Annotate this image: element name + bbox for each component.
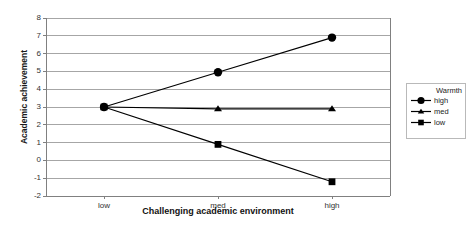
legend-label: high	[434, 97, 448, 105]
data-point-low	[215, 141, 222, 148]
legend-item-high[interactable]: high	[409, 95, 463, 106]
legend-label: med	[434, 108, 449, 116]
legend-label: low	[434, 119, 445, 127]
data-point-low	[101, 104, 108, 111]
data-point-high	[214, 68, 222, 76]
legend-marker-triangle-icon	[410, 106, 432, 117]
legend-item-med[interactable]: med	[409, 106, 463, 117]
data-point-low	[329, 178, 336, 185]
data-series-layer	[100, 33, 336, 185]
legend-marker-circle-icon	[410, 95, 432, 106]
interaction-line-chart: Academic achievement 876543210-1-2 lowme…	[0, 0, 472, 234]
legend-title: Warmth	[409, 86, 463, 95]
x-axis-title: Challenging academic environment	[46, 206, 390, 216]
series-low	[101, 104, 336, 186]
data-point-high	[328, 33, 336, 41]
legend-item-low[interactable]: low	[409, 117, 463, 128]
legend-marker-square-icon	[410, 117, 432, 128]
legend-entries: highmedlow	[409, 95, 463, 128]
plot-area	[0, 0, 472, 234]
series-high	[100, 33, 336, 111]
legend: Warmth highmedlow	[406, 83, 466, 139]
